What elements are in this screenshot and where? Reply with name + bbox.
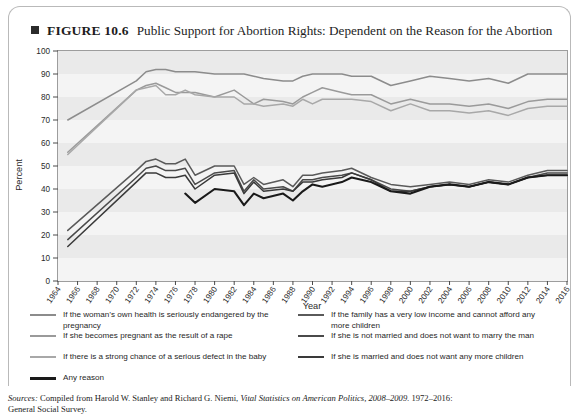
- legend-swatch-health: [30, 314, 56, 316]
- legend-label-married-no-more: If she is married and does not want any …: [331, 352, 524, 363]
- legend-label-health: If the woman’s own health is seriously e…: [63, 310, 281, 331]
- legend-label-rape: If she becomes pregnant as the result of…: [63, 331, 233, 342]
- source-line-2: General Social Survey.: [8, 404, 573, 415]
- page-title: Public Support for Abortion Rights: Depe…: [137, 23, 553, 39]
- source-note: Sources: Compiled from Harold W. Stanley…: [8, 393, 573, 415]
- legend-swatch-defect: [30, 356, 56, 358]
- legend-item-health[interactable]: If the woman’s own health is seriously e…: [30, 310, 298, 331]
- legend-swatch-married-no-more: [298, 356, 324, 358]
- figure-number: FIGURE 10.6: [47, 23, 129, 39]
- legend-item-married-no-more[interactable]: If she is married and does not want any …: [298, 352, 560, 373]
- legend-label-any-reason: Any reason: [63, 373, 104, 384]
- source-prefix: Sources:: [8, 393, 38, 403]
- figure-marker-icon: [31, 26, 39, 34]
- legend-swatch-rape: [30, 335, 56, 337]
- source-text-b: 1972–2016:: [409, 393, 452, 403]
- figure-heading: FIGURE 10.6 Public Support for Abortion …: [31, 23, 552, 39]
- legend-item-any-reason[interactable]: Any reason: [30, 373, 298, 394]
- source-italic: Vital Statistics on American Politics, 2…: [240, 393, 409, 403]
- legend-swatch-any-reason: [30, 377, 56, 380]
- legend-swatch-low-income: [298, 314, 324, 316]
- legend-label-not-married: If she is not married and does not want …: [331, 331, 534, 342]
- chart-legend: If the woman’s own health is seriously e…: [30, 310, 560, 394]
- legend-item-defect[interactable]: If there is a strong chance of a serious…: [30, 352, 298, 373]
- legend-item-rape[interactable]: If she becomes pregnant as the result of…: [30, 331, 298, 352]
- legend-item-not-married[interactable]: If she is not married and does not want …: [298, 331, 560, 352]
- legend-label-defect: If there is a strong chance of a serious…: [63, 352, 266, 363]
- legend-swatch-not-married: [298, 335, 324, 337]
- legend-label-low-income: If the family has a very low income and …: [331, 310, 549, 331]
- source-text-a: Compiled from Harold W. Stanley and Rich…: [38, 393, 241, 403]
- legend-item-low-income[interactable]: If the family has a very low income and …: [298, 310, 560, 331]
